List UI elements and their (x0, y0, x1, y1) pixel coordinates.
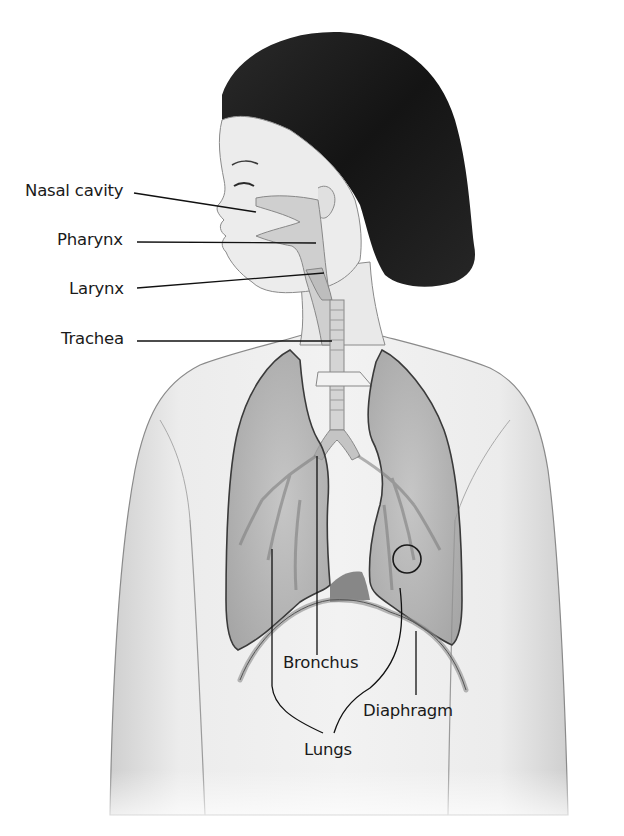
label-nasal-cavity: Nasal cavity (25, 183, 123, 200)
respiratory-diagram: Nasal cavity Pharynx Larynx Trachea Bron… (0, 0, 624, 836)
anatomy-illustration (0, 0, 624, 836)
label-trachea: Trachea (61, 331, 124, 348)
label-larynx: Larynx (69, 281, 124, 298)
label-diaphragm: Diaphragm (363, 703, 453, 720)
label-bronchus: Bronchus (283, 655, 358, 672)
label-pharynx: Pharynx (57, 232, 123, 249)
label-lungs: Lungs (304, 742, 352, 759)
